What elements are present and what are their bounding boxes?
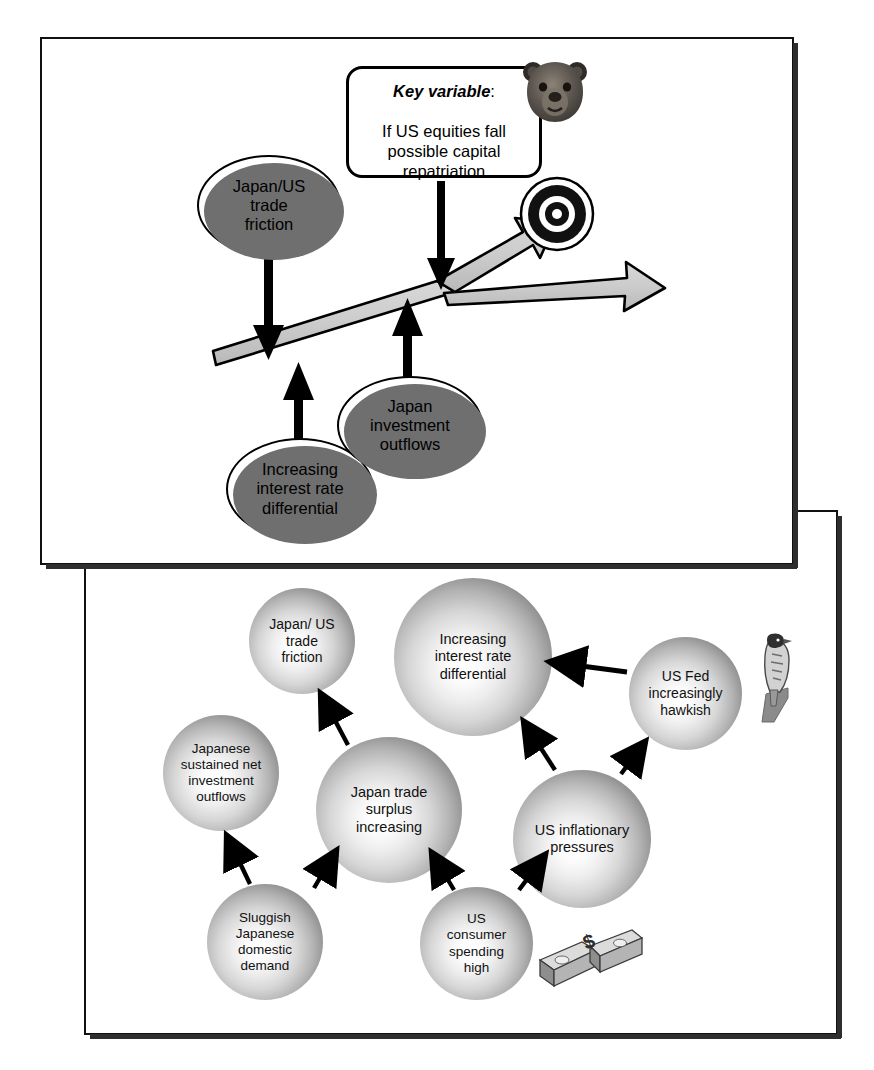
ellipse-japan-investment-outflows: Japan investment outflows bbox=[337, 376, 483, 475]
dollar-bills-icon: $ bbox=[534, 916, 644, 1002]
ellipse-japan-us-trade-friction: Japan/US trade friction bbox=[197, 155, 341, 256]
key-variable-heading-suffix: : bbox=[490, 82, 495, 100]
node-label: US inflationary pressures bbox=[535, 822, 629, 857]
node-japanese-sustained-net-investment-outflows: Japanese sustained net investment outflo… bbox=[163, 715, 279, 831]
node-label: Japan trade surplus increasing bbox=[351, 784, 428, 836]
key-variable-body: If US equities fall possible capital rep… bbox=[382, 122, 506, 180]
hawk-icon bbox=[744, 622, 814, 726]
bullseye-target-icon bbox=[518, 175, 596, 253]
node-us-consumer-spending-high: US consumer spending high bbox=[420, 887, 533, 1000]
ellipse-label: Increasing interest rate differential bbox=[256, 460, 343, 517]
node-label: US Fed increasingly hawkish bbox=[649, 668, 723, 718]
key-variable-callout: Key variable: If US equities fall possib… bbox=[346, 66, 542, 178]
node-us-inflationary-pressures: US inflationary pressures bbox=[513, 770, 651, 908]
diagram-canvas: Key variable: If US equities fall possib… bbox=[0, 0, 874, 1070]
node-label: US consumer spending high bbox=[447, 911, 506, 976]
ellipse-label: Japan/US trade friction bbox=[233, 177, 305, 234]
node-sluggish-japanese-domestic-demand: Sluggish Japanese domestic demand bbox=[207, 884, 323, 1000]
node-japan-trade-surplus-increasing: Japan trade surplus increasing bbox=[316, 737, 462, 883]
bear-icon bbox=[517, 52, 593, 128]
node-increasing-interest-rate-differential: Increasing interest rate differential bbox=[394, 578, 552, 736]
key-variable-heading: Key variable bbox=[393, 82, 490, 100]
node-japan-us-trade-friction: Japan/ US trade friction bbox=[249, 588, 355, 694]
ellipse-label: Japan investment outflows bbox=[370, 397, 450, 454]
node-label: Increasing interest rate differential bbox=[435, 631, 512, 683]
node-label: Japan/ US trade friction bbox=[269, 616, 334, 666]
node-label: Sluggish Japanese domestic demand bbox=[236, 910, 295, 975]
node-label: Japanese sustained net investment outflo… bbox=[181, 741, 261, 806]
node-us-fed-increasingly-hawkish: US Fed increasingly hawkish bbox=[629, 637, 742, 750]
